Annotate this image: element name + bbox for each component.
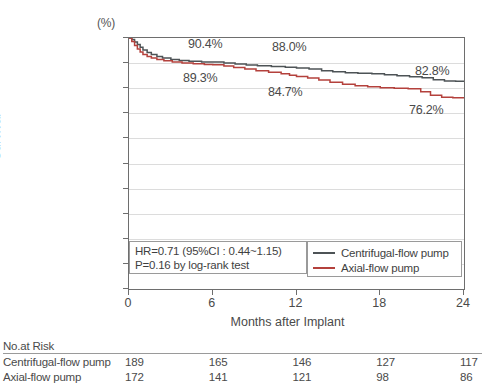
risk-row-value: 189 (125, 356, 144, 368)
x-tick-label: 12 (289, 296, 303, 310)
x-tick-label: 0 (125, 296, 132, 310)
survival-chart: (%) Survival 0102030405060708090100 0612… (0, 0, 485, 388)
risk-row-value: 127 (376, 356, 395, 368)
risk-row-value: 141 (209, 371, 228, 383)
hazard-ratio-text: HR=0.71 (95%CI : 0.44~1.15) (135, 244, 306, 258)
x-tick-mark (128, 290, 129, 295)
legend-line-icon (313, 267, 335, 269)
x-tick-mark (212, 290, 213, 295)
curve-value-label: 76.2% (409, 103, 443, 117)
x-axis-ticks: 06121824 (0, 0, 485, 388)
risk-row-value: 121 (293, 371, 312, 383)
number-at-risk-table: No.at Risk Centrifugal-flow pump18916514… (3, 340, 482, 384)
risk-row-value: 165 (209, 356, 228, 368)
risk-row-value: 117 (460, 356, 478, 368)
risk-row-value: 146 (293, 356, 312, 368)
curve-value-label: 88.0% (272, 40, 306, 54)
risk-table-rule (3, 353, 482, 354)
risk-row-value: 98 (376, 371, 388, 383)
risk-table-row: Centrifugal-flow pump189165146127117 (3, 356, 482, 369)
risk-row-label: Centrifugal-flow pump (3, 356, 111, 368)
x-tick-mark (296, 290, 297, 295)
curve-value-label: 90.4% (188, 37, 222, 51)
legend-item-centrifugal: Centrifugal-flow pump (313, 245, 461, 260)
legend-label: Centrifugal-flow pump (341, 247, 449, 259)
x-tick-mark (463, 290, 464, 295)
statistics-box: HR=0.71 (95%CI : 0.44~1.15) P=0.16 by lo… (129, 241, 307, 274)
risk-row-value: 172 (125, 371, 144, 383)
x-tick-label: 18 (372, 296, 386, 310)
risk-table-title: No.at Risk (3, 340, 482, 353)
x-axis-label: Months after Implant (0, 315, 485, 329)
x-tick-label: 6 (208, 296, 215, 310)
legend-item-axial: Axial-flow pump (313, 260, 461, 275)
risk-table-row: Axial-flow pump1721411219886 (3, 371, 482, 384)
legend-label: Axial-flow pump (341, 262, 419, 274)
curve-value-label: 84.7% (268, 85, 302, 99)
chart-legend: Centrifugal-flow pump Axial-flow pump (307, 241, 462, 277)
risk-row-label: Axial-flow pump (3, 371, 81, 383)
curve-value-label: 82.8% (415, 64, 449, 78)
p-value-text: P=0.16 by log-rank test (135, 258, 306, 272)
legend-line-icon (313, 252, 335, 254)
x-tick-mark (379, 290, 380, 295)
curve-value-label: 89.3% (183, 71, 217, 85)
x-tick-label: 24 (456, 296, 470, 310)
risk-row-value: 86 (460, 371, 472, 383)
